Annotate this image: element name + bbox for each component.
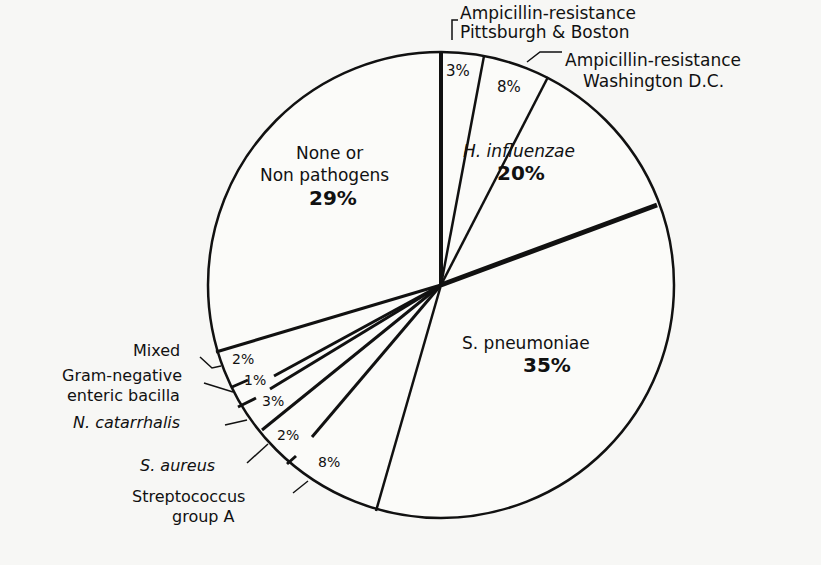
pct-hinf: 20% bbox=[497, 161, 545, 185]
label-gram-2: enteric bacilla bbox=[67, 386, 180, 405]
pct-amp-dc: 8% bbox=[497, 78, 521, 96]
label-saureus: S. aureus bbox=[140, 456, 215, 475]
label-none-2: Non pathogens bbox=[260, 165, 389, 185]
pct-saureus: 2% bbox=[277, 427, 299, 443]
pct-mixed: 2% bbox=[232, 351, 254, 367]
label-strep-2: group A bbox=[172, 507, 235, 526]
pct-ncat: 3% bbox=[262, 393, 284, 409]
pie-chart: Ampicillin-resistance Pittsburgh & Bosto… bbox=[0, 0, 821, 565]
label-mixed: Mixed bbox=[133, 341, 180, 360]
label-none-1: None or bbox=[296, 143, 363, 163]
pct-strep: 8% bbox=[318, 454, 340, 470]
pct-amp-pb: 3% bbox=[446, 62, 470, 80]
label-hinf: H. influenzae bbox=[463, 141, 575, 161]
label-amp-dc-2: Washington D.C. bbox=[583, 71, 724, 91]
pct-none: 29% bbox=[309, 186, 357, 210]
label-spn: S. pneumoniae bbox=[462, 333, 590, 353]
label-strep-1: Streptococcus bbox=[132, 487, 245, 506]
pct-spn: 35% bbox=[523, 353, 571, 377]
label-gram-1: Gram-negative bbox=[62, 366, 182, 385]
pct-gram: 1% bbox=[244, 372, 266, 388]
label-amp-pb-2: Pittsburgh & Boston bbox=[460, 22, 629, 42]
label-ncat: N. catarrhalis bbox=[73, 413, 180, 432]
label-amp-pb-1: Ampicillin-resistance bbox=[460, 3, 636, 23]
label-amp-dc-1: Ampicillin-resistance bbox=[565, 50, 741, 70]
